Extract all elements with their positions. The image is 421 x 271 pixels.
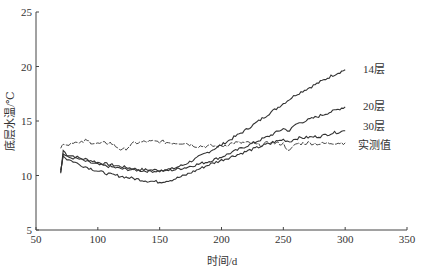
y-tick-label: 10 [21, 170, 33, 182]
y-tick-label: 20 [21, 61, 33, 73]
x-axis-label: 时间/d [207, 255, 238, 267]
y-tick-label: 5 [27, 224, 33, 236]
y-axis-label: 底层水温/℃ [3, 91, 16, 150]
series-label-20: 20层 [363, 100, 385, 112]
series-label-30: 30层 [363, 120, 385, 132]
series-line-2 [61, 107, 346, 173]
series-line-4 [61, 139, 346, 150]
x-tick-label: 250 [275, 233, 292, 245]
line-chart: 50100150200250300350510152025 14层 20层 30… [0, 0, 421, 271]
series-lines [61, 70, 346, 183]
series-label-14: 14层 [363, 63, 385, 75]
x-tick-label: 150 [151, 233, 168, 245]
axes: 50100150200250300350510152025 [21, 6, 416, 245]
x-tick-label: 100 [90, 233, 107, 245]
x-tick-label: 300 [337, 233, 354, 245]
series-line-1 [61, 70, 346, 174]
series-label-measured: 实测值 [358, 138, 391, 151]
y-tick-label: 15 [21, 115, 33, 127]
y-tick-label: 25 [21, 6, 33, 18]
x-tick-label: 50 [31, 233, 43, 245]
x-tick-label: 200 [213, 233, 230, 245]
series-line-3 [61, 131, 346, 183]
x-tick-label: 350 [399, 233, 416, 245]
